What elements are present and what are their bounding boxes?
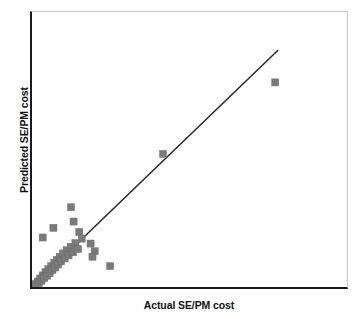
data-point bbox=[87, 240, 94, 247]
data-point bbox=[50, 224, 57, 231]
scatter-plot-figure: Predicted SE/PM cost Actual SE/PM cost bbox=[0, 0, 359, 319]
plot-frame bbox=[30, 11, 348, 289]
data-point bbox=[272, 79, 279, 86]
chart-canvas bbox=[32, 12, 347, 287]
data-point bbox=[70, 218, 77, 225]
data-point bbox=[89, 253, 96, 260]
y-axis-label: Predicted SE/PM cost bbox=[18, 30, 30, 250]
data-point bbox=[159, 150, 166, 157]
data-point bbox=[107, 263, 114, 270]
x-axis-label: Actual SE/PM cost bbox=[30, 299, 348, 311]
data-point bbox=[39, 234, 46, 241]
plot-area bbox=[32, 12, 347, 287]
data-point bbox=[76, 228, 83, 235]
data-point bbox=[78, 235, 85, 242]
data-point bbox=[74, 245, 81, 252]
data-points-layer bbox=[32, 79, 279, 287]
data-point bbox=[67, 204, 74, 211]
